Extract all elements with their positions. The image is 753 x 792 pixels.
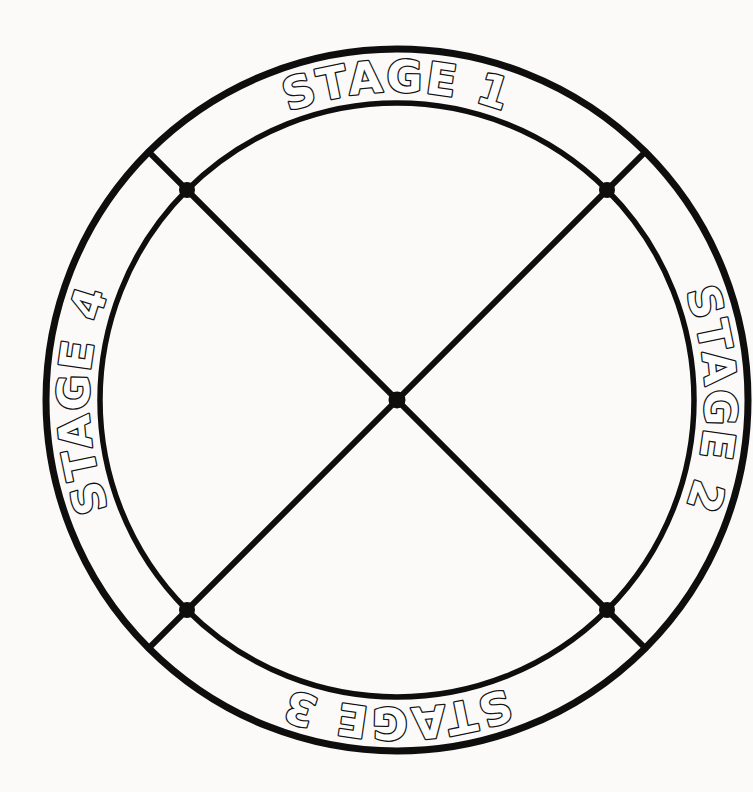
- node-dot-center: [389, 392, 406, 409]
- node-dot-top-left: [179, 182, 195, 198]
- stage-cycle-canvas: STAGE 1 STAGE 2 STAGE 3 STAGE 4: [0, 0, 753, 792]
- node-dot-bottom-left: [179, 602, 195, 618]
- node-dot-top-right: [599, 182, 615, 198]
- node-dot-bottom-right: [599, 602, 615, 618]
- stage-cycle-diagram: STAGE 1 STAGE 2 STAGE 3 STAGE 4: [0, 0, 753, 792]
